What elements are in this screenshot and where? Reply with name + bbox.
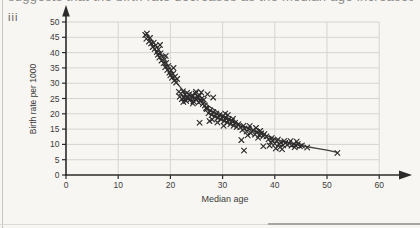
textbook-page: suggests that the birth rate decreases a…: [0, 0, 420, 228]
y-tick-label: 5: [55, 155, 60, 165]
x-tick-label: 10: [113, 180, 123, 190]
y-tick-label: 15: [50, 124, 60, 134]
scatter-chart: 010203040506005101520253035404550Median …: [0, 0, 420, 216]
y-axis-arrow: [62, 5, 70, 17]
x-axis-arrow: [399, 171, 412, 180]
y-tick-label: 50: [50, 17, 60, 27]
bottom-rule-light: [0, 224, 272, 225]
x-tick-label: 50: [322, 180, 332, 190]
y-axis-title: Birth rate per 1000: [28, 64, 38, 135]
scatter-points: [143, 31, 340, 155]
y-tick-label: 45: [50, 32, 60, 42]
y-tick-label: 20: [50, 109, 60, 119]
y-tick-label: 10: [50, 139, 60, 149]
scatter-plot-svg: 010203040506005101520253035404550Median …: [0, 0, 420, 216]
y-tick-label: 35: [50, 63, 60, 73]
y-tick-label: 40: [50, 48, 60, 58]
x-tick-label: 0: [64, 180, 69, 190]
x-tick-label: 40: [270, 180, 280, 190]
bottom-rule-dark: [268, 223, 420, 225]
trend-line: [147, 34, 338, 152]
x-tick-label: 60: [374, 180, 384, 190]
y-tick-label: 25: [50, 94, 60, 104]
x-tick-label: 20: [166, 180, 176, 190]
x-tick-label: 30: [218, 180, 228, 190]
y-tick-label: 0: [55, 170, 60, 180]
y-tick-label: 30: [50, 78, 60, 88]
x-axis-title: Median age: [201, 194, 248, 204]
